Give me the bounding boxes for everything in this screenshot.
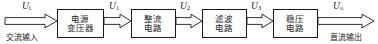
caption-dc-output: 直流输出 bbox=[330, 31, 362, 42]
block-transformer: 电源 变压器 bbox=[57, 9, 104, 38]
block-filter-line2: 电路 bbox=[215, 24, 233, 33]
block-filter: 滤波 电路 bbox=[202, 9, 247, 38]
signal-symbol-u-2: U bbox=[180, 1, 187, 11]
signal-subscript-u-1: 1 bbox=[116, 4, 119, 11]
signal-label-u-2: U2 bbox=[180, 1, 190, 11]
caption-ac-input: 交流输入 bbox=[6, 31, 38, 42]
signal-symbol-u-3: U bbox=[251, 1, 258, 11]
block-rectifier-line2: 电路 bbox=[144, 24, 162, 33]
signal-subscript-u-3: 3 bbox=[258, 4, 261, 11]
arrow-in bbox=[5, 14, 57, 28]
signal-label-u-3: U3 bbox=[251, 1, 261, 11]
signal-label-u-1: U1 bbox=[109, 1, 119, 11]
arrow-transformer-rectifier bbox=[104, 14, 131, 28]
arrow-rectifier-filter bbox=[176, 14, 202, 28]
power-supply-block-diagram: 电源 变压器 整流 电路 滤波 电路 稳压 电路 Ui U1 U2 U3 Uo … bbox=[0, 0, 378, 44]
arrow-out bbox=[318, 14, 374, 28]
signal-symbol-u-1: U bbox=[109, 1, 116, 11]
signal-subscript-u-out: o bbox=[340, 4, 343, 11]
signal-symbol-u-out: U bbox=[333, 1, 340, 11]
signal-label-u-out: Uo bbox=[333, 1, 343, 11]
signal-subscript-u-in: i bbox=[29, 4, 31, 11]
signal-label-u-in: Ui bbox=[22, 1, 31, 11]
block-regulator-line2: 电路 bbox=[286, 24, 304, 33]
signal-symbol-u-in: U bbox=[22, 1, 29, 11]
block-transformer-line2: 变压器 bbox=[67, 24, 95, 33]
block-rectifier: 整流 电路 bbox=[131, 9, 176, 38]
signal-subscript-u-2: 2 bbox=[187, 4, 190, 11]
block-regulator: 稳压 电路 bbox=[273, 9, 318, 38]
arrow-filter-regulator bbox=[247, 14, 273, 28]
